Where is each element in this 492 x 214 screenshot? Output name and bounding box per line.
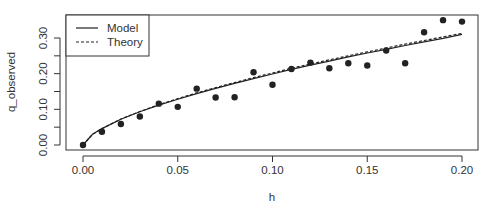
data-point bbox=[345, 60, 351, 66]
data-point bbox=[307, 59, 313, 65]
y-tick-label: 0.30 bbox=[37, 27, 49, 49]
x-tick-label: 0.20 bbox=[451, 164, 473, 176]
data-point bbox=[364, 62, 370, 68]
data-point bbox=[231, 94, 237, 100]
data-point bbox=[421, 29, 427, 35]
x-tick-label: 0.05 bbox=[167, 164, 189, 176]
legend-model-label: Model bbox=[107, 22, 138, 34]
data-point bbox=[269, 82, 275, 88]
legend-theory-label: Theory bbox=[107, 36, 143, 48]
data-point bbox=[156, 100, 162, 106]
data-point bbox=[118, 121, 124, 127]
data-point bbox=[383, 47, 389, 53]
x-tick-label: 0.15 bbox=[356, 164, 378, 176]
x-tick-label: 0.10 bbox=[261, 164, 283, 176]
x-axis: 0.000.050.100.150.20 bbox=[72, 156, 473, 176]
data-point bbox=[402, 60, 408, 66]
data-point bbox=[288, 66, 294, 72]
x-tick-label: 0.00 bbox=[72, 164, 94, 176]
data-point bbox=[80, 142, 86, 148]
data-point bbox=[250, 69, 256, 75]
data-point bbox=[194, 85, 200, 91]
data-point bbox=[137, 113, 143, 119]
data-point bbox=[326, 65, 332, 71]
chart: 0.000.100.200.30 0.000.050.100.150.20 h … bbox=[0, 0, 492, 214]
data-point bbox=[175, 104, 181, 110]
y-tick-label: 0.10 bbox=[37, 98, 49, 120]
data-point bbox=[212, 94, 218, 100]
data-point bbox=[440, 17, 446, 23]
y-tick-label: 0.00 bbox=[37, 134, 49, 156]
y-axis: 0.000.100.200.30 bbox=[37, 27, 60, 156]
y-axis-label: q_observed bbox=[5, 52, 17, 112]
x-axis-label: h bbox=[269, 191, 275, 203]
legend: Model Theory bbox=[66, 15, 149, 56]
data-point bbox=[99, 129, 105, 135]
data-point bbox=[459, 18, 465, 24]
y-tick-label: 0.20 bbox=[37, 62, 49, 84]
